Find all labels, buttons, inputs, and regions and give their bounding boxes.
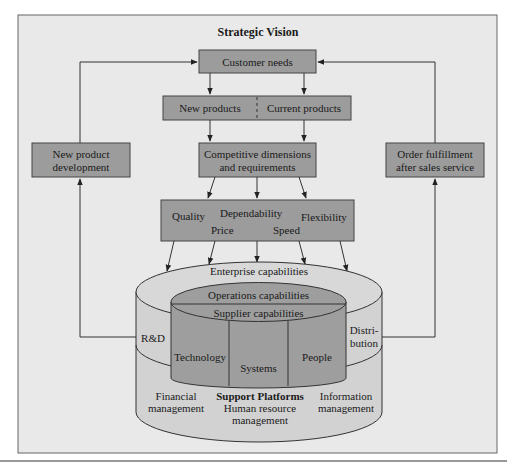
information-line1: Information — [320, 390, 373, 402]
dimension-dependability: Dependability — [220, 207, 283, 219]
dimension-price: Price — [211, 224, 234, 236]
operations-capabilities-label: Operations capabilities — [208, 289, 309, 301]
dimension-speed: Speed — [273, 224, 300, 236]
distribution-line2: bution — [350, 337, 379, 349]
supplier-capabilities-label: Supplier capabilities — [213, 307, 303, 319]
competitive-line1: Competitive dimensions — [204, 148, 311, 160]
human-resource-line2: management — [232, 414, 288, 426]
financial-line1: Financial — [156, 390, 197, 402]
systems-label: Systems — [240, 362, 277, 374]
customer-needs-label: Customer needs — [222, 56, 293, 68]
people-label: People — [302, 351, 332, 363]
competitive-line2: and requirements — [219, 161, 295, 173]
order-line1: Order fulfillment — [397, 148, 472, 160]
npd-line1: New product — [52, 148, 109, 160]
strategic-vision-diagram: Strategic Vision Customer needs New prod… — [0, 0, 507, 472]
competitive-dimensions-box: Competitive dimensions and requirements — [199, 143, 316, 177]
customer-needs-box: Customer needs — [199, 50, 316, 73]
new-products-label: New products — [179, 102, 240, 114]
competitive-dimensions-list-box: Quality Dependability Flexibility Price … — [161, 200, 354, 241]
information-line2: management — [318, 402, 374, 414]
dimension-flexibility: Flexibility — [301, 211, 347, 223]
current-products-label: Current products — [267, 102, 341, 114]
enterprise-capabilities-label: Enterprise capabilities — [210, 265, 308, 277]
npd-line2: development — [53, 161, 110, 173]
diagram-title: Strategic Vision — [218, 25, 299, 39]
operations-capabilities-cylinder: Operations capabilities Supplier capabil… — [171, 283, 346, 388]
new-product-development-box: New product development — [32, 143, 130, 177]
human-resource-line1: Human resource — [224, 402, 297, 414]
financial-line2: management — [148, 402, 204, 414]
order-fulfillment-box: Order fulfillment after sales service — [386, 143, 484, 177]
technology-label: Technology — [174, 351, 226, 363]
rnd-label: R&D — [141, 332, 165, 344]
support-platforms-label: Support Platforms — [216, 390, 304, 402]
order-line2: after sales service — [396, 161, 474, 173]
dimension-quality: Quality — [172, 210, 205, 222]
distribution-line1: Distri- — [350, 324, 379, 336]
products-box: New products Current products — [163, 96, 351, 120]
